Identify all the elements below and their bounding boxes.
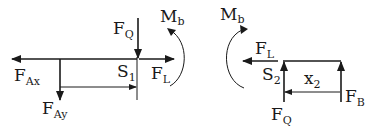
free-body-diagram: FAx FAy FQ FL S1 Mb Mb [0,0,366,133]
label-s2: S2 [262,64,281,87]
label-fq-left: FQ [113,18,134,41]
label-fay: FAy [42,98,68,121]
moment-arrowhead-right [240,25,248,34]
moment-arc-left [170,30,184,86]
label-x2: x2 [304,68,321,91]
label-fax: FAx [14,65,41,88]
label-mb-right: Mb [220,4,244,26]
label-fl-left: FL [151,63,171,86]
label-mb-left: Mb [160,6,184,28]
moment-arc-right [226,30,244,88]
label-fq-right: FQ [271,104,292,127]
label-s1: S1 [117,61,136,84]
label-fb: FB [345,86,365,109]
label-fl-right: FL [255,38,275,61]
left-section: FAx FAy FQ FL S1 Mb [12,6,184,121]
moment-arrowhead-left [167,28,176,36]
right-section: Mb FL S2 x2 FQ FB [220,4,365,127]
